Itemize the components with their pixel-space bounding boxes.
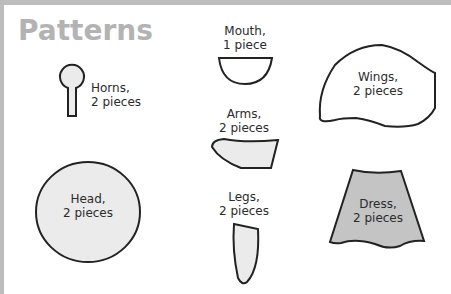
wings-name: Wings, — [348, 70, 408, 84]
arms-label: Arms, 2 pieces — [214, 107, 274, 135]
legs-name: Legs, — [214, 190, 274, 204]
horns-label: Horns, 2 pieces — [91, 81, 141, 109]
arms-shape — [212, 139, 278, 168]
wings-count: 2 pieces — [348, 84, 408, 98]
horns-name: Horns, — [91, 81, 141, 95]
dress-label: Dress, 2 pieces — [348, 197, 408, 225]
legs-label: Legs, 2 pieces — [214, 190, 274, 218]
mouth-count: 1 piece — [218, 38, 272, 52]
horns-shape — [60, 65, 84, 116]
wings-label: Wings, 2 pieces — [348, 70, 408, 98]
arms-name: Arms, — [214, 107, 274, 121]
head-label: Head, 2 pieces — [58, 192, 118, 220]
arms-count: 2 pieces — [214, 121, 274, 135]
dress-count: 2 pieces — [348, 211, 408, 225]
mouth-label: Mouth, 1 piece — [218, 24, 272, 52]
legs-count: 2 pieces — [214, 204, 274, 218]
mouth-name: Mouth, — [218, 24, 272, 38]
legs-shape — [234, 224, 259, 283]
mouth-shape — [219, 58, 272, 84]
dress-name: Dress, — [348, 197, 408, 211]
horns-count: 2 pieces — [91, 95, 141, 109]
head-name: Head, — [58, 192, 118, 206]
head-count: 2 pieces — [58, 206, 118, 220]
